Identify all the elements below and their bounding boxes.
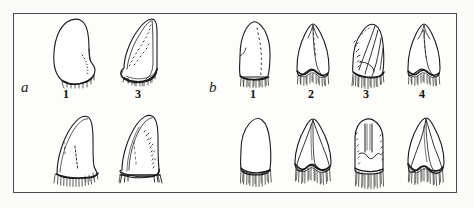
tooth-b4-upper-view [396,18,450,88]
specimen-number-a-3: 3 [128,88,148,100]
tooth-a1-upper-view [48,16,102,88]
specimen-number-b-2: 2 [301,88,321,100]
group-label-a: a [21,80,29,95]
figure-plate: a 1 3 [0,0,474,208]
tooth-a1-lower-view [44,112,108,188]
specimen-number-b-4: 4 [412,88,432,100]
specimen-number-b-1: 1 [243,88,263,100]
specimen-number-b-3: 3 [356,88,376,100]
group-label-b: b [209,80,217,95]
tooth-b2-lower-view [284,114,342,188]
tooth-b3-upper-view [340,18,396,88]
tooth-b2-upper-view [286,18,340,88]
specimen-number-a-1: 1 [56,88,76,100]
tooth-b4-lower-view [396,114,454,188]
tooth-b1-lower-view [228,114,282,188]
tooth-b1-upper-view [228,18,280,88]
tooth-b3-lower-view [341,114,397,188]
tooth-a3-lower-view [108,112,172,188]
tooth-a3-upper-view [110,16,168,88]
